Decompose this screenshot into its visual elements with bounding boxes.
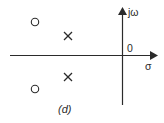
imaginary-axis-label: jω [128,7,139,18]
pole-marker-lower [64,73,72,81]
zero-marker-upper [31,18,38,25]
pole-markers [64,32,72,81]
pole-zero-plot: jω 0 σ (d) [0,0,164,123]
pole-marker-upper [64,32,72,40]
imaginary-axis-arrow-icon [118,7,127,15]
origin-label: 0 [127,43,133,54]
real-axis [10,51,158,60]
real-axis-arrow-icon [150,51,158,60]
real-axis-label: σ [145,61,151,72]
s-plane-canvas [0,0,164,123]
figure-caption: (d) [58,104,71,115]
zero-marker-lower [31,85,38,92]
